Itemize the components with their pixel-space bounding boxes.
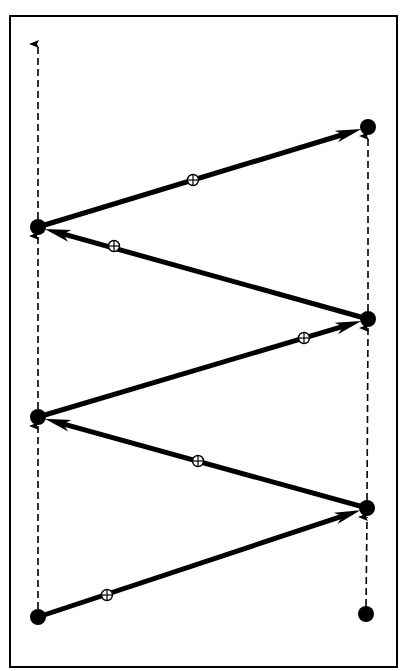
diagram-frame	[10, 16, 397, 667]
circle-cross-icon	[188, 175, 199, 186]
timeline-nodes	[30, 119, 376, 625]
message-arrow	[38, 129, 361, 227]
node-dot-r3	[360, 119, 376, 135]
node-dot-r0	[358, 606, 374, 622]
node-dot-l1	[30, 609, 46, 625]
circle-cross-icon	[299, 333, 310, 344]
circle-cross-icon	[109, 241, 120, 252]
node-dot-l3	[30, 219, 46, 235]
circle-cross-icon	[102, 590, 113, 601]
circle-cross-icon	[193, 456, 204, 467]
node-dot-r1	[359, 500, 375, 516]
message-arrow	[45, 419, 367, 508]
node-dot-r2	[360, 311, 376, 327]
dashed-timeline-arrow	[367, 328, 368, 500]
dashed-timeline-arrow	[366, 517, 367, 606]
message-arrow	[45, 229, 368, 319]
sequence-diagram	[0, 0, 408, 671]
message-arrow	[38, 510, 360, 617]
message-arrow	[38, 321, 361, 417]
message-arrows	[38, 129, 368, 617]
node-dot-l2	[30, 409, 46, 425]
